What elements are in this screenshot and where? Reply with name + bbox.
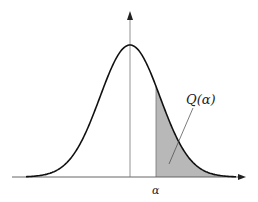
tail-area-label: Q(α) xyxy=(186,92,216,107)
x-axis-arrow-icon xyxy=(238,174,246,180)
gaussian-diagram: Q(α) α xyxy=(0,0,258,202)
y-axis-arrow-icon xyxy=(127,11,133,20)
gaussian-curve xyxy=(26,45,236,177)
threshold-label: α xyxy=(152,184,160,197)
